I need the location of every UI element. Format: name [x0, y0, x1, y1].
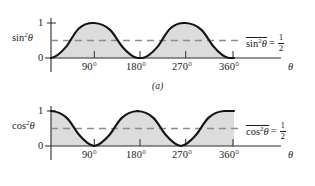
- chart-a-xtick-label-180: 180°: [126, 62, 146, 73]
- chart-a-ann-numerator: 1: [278, 33, 285, 42]
- chart-b-ann-denominator: 2: [280, 131, 287, 141]
- chart-a-ytick-label-1: 1: [38, 18, 43, 29]
- trig-squared-average-figure: sin2θ 1 0 90° 180° 270° 360° θ sin2θ = 1…: [0, 0, 315, 186]
- chart-a-ytick-label-0: 0: [38, 53, 43, 64]
- chart-panel-a: sin2θ 1 0 90° 180° 270° 360° θ sin2θ = 1…: [0, 0, 315, 78]
- chart-b-y-axis-label: cos2θ: [12, 121, 35, 132]
- chart-b-y-theta: θ: [30, 120, 35, 131]
- chart-a-ann-theta: θ: [262, 38, 267, 49]
- chart-a-ann-fraction: 1 2: [278, 33, 285, 53]
- chart-b-xtick-label-360: 360°: [219, 150, 239, 161]
- chart-a-xtick-label-360: 360°: [219, 62, 239, 73]
- chart-b-ytick-label-0: 0: [38, 141, 43, 152]
- chart-b-ytick-label-1: 1: [38, 106, 43, 117]
- figure-caption-a: (a): [152, 82, 163, 92]
- chart-b-xtick-label-90: 90°: [82, 150, 97, 161]
- chart-a-ann-equals: =: [269, 38, 275, 49]
- chart-a-xtick-label-90: 90°: [82, 62, 97, 73]
- chart-b-ann-numerator: 1: [280, 121, 287, 130]
- chart-a-x-axis-label: θ: [288, 62, 293, 73]
- chart-b-ann-fraction: 1 2: [280, 121, 287, 141]
- chart-b-y-fn: cos: [12, 120, 26, 131]
- chart-a-average-annotation: sin2θ = 1 2: [246, 33, 284, 53]
- chart-b-ann-equals: =: [271, 126, 277, 137]
- chart-b-xtick-label-270: 270°: [172, 150, 192, 161]
- chart-a-y-axis-label: sin2θ: [12, 33, 33, 44]
- chart-panel-b: cos2θ 1 0 90° 180° 270° 360° θ cos2θ = 1…: [0, 98, 315, 178]
- chart-b-ann-theta: θ: [264, 126, 269, 137]
- chart-b-xtick-label-180: 180°: [126, 150, 146, 161]
- chart-a-ann-denominator: 2: [278, 43, 285, 53]
- chart-a-y-theta: θ: [28, 32, 33, 43]
- chart-b-ann-fn: cos: [246, 126, 260, 137]
- chart-b-average-annotation: cos2θ = 1 2: [246, 121, 286, 141]
- chart-a-y-fn: sin: [12, 32, 24, 43]
- chart-a-ann-fn: sin: [246, 38, 258, 49]
- chart-b-x-axis-label: θ: [288, 150, 293, 161]
- chart-a-xtick-label-270: 270°: [172, 62, 192, 73]
